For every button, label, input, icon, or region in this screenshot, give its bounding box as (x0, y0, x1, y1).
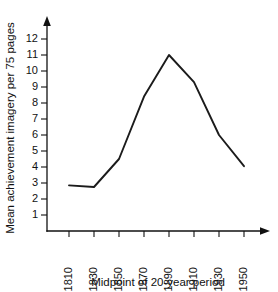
y-tick-label: 4 (32, 160, 38, 172)
y-axis-title: Mean achievement imagery per 75 pages (4, 22, 16, 234)
y-tick-label: 11 (27, 48, 38, 60)
y-tick-label: 8 (32, 96, 38, 108)
y-tick-label: 5 (32, 144, 38, 156)
line-chart: 1 2 3 4 5 6 7 8 9 10 11 12 1810 18 (0, 0, 278, 292)
x-tick-label: 1810 (62, 267, 74, 291)
y-tick-label: 3 (32, 176, 38, 188)
data-series-line (69, 55, 244, 187)
y-axis-tick-labels: 1 2 3 4 5 6 7 8 9 10 11 12 (26, 32, 38, 220)
x-axis-arrow-icon (260, 227, 270, 235)
y-tick-label: 6 (32, 128, 38, 140)
y-tick-label: 9 (32, 80, 38, 92)
y-axis-ticks (41, 39, 47, 215)
y-tick-label: 2 (32, 192, 38, 204)
x-axis-title: Midpoint of 20-year period (91, 276, 225, 288)
chart-canvas: 1 2 3 4 5 6 7 8 9 10 11 12 1810 18 (0, 0, 278, 292)
y-tick-label: 12 (26, 32, 38, 44)
y-tick-label: 10 (26, 64, 38, 76)
y-axis-arrow-icon (43, 16, 51, 26)
y-tick-label: 7 (32, 112, 38, 124)
y-tick-label: 1 (32, 208, 38, 220)
x-axis-ticks (69, 231, 244, 237)
x-tick-label: 1950 (237, 267, 249, 291)
